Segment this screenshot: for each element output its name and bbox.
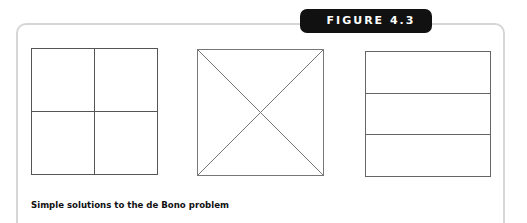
figure-diagrams: [0, 0, 527, 223]
figure-caption: Simple solutions to the de Bono problem: [31, 200, 229, 210]
square-strips-diagram: [366, 52, 491, 177]
square-quarters-diagram: [32, 49, 158, 175]
square-diagonals-diagram: [198, 50, 324, 176]
